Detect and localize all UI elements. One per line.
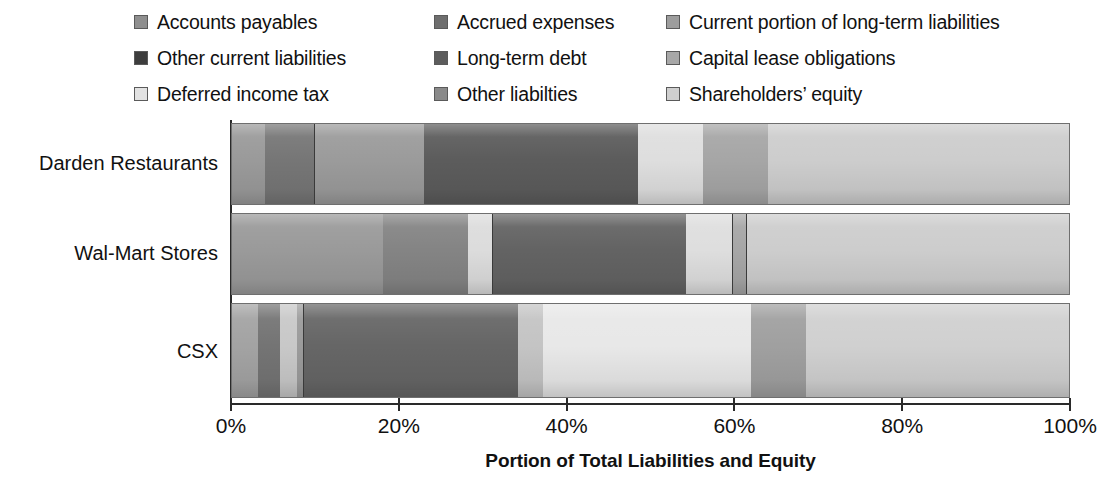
legend-item-label: Long-term debt: [457, 47, 586, 70]
legend-item: Other current liabilities: [134, 47, 434, 70]
bar-csx: [231, 303, 1070, 398]
x-axis-tick: [733, 398, 735, 411]
legend-swatch-other-liabilities: [434, 87, 448, 101]
legend-swatch-current-portion: [666, 15, 680, 29]
x-axis-tick-label: 100%: [1043, 414, 1097, 438]
legend-swatch-accrued-expenses: [434, 15, 448, 29]
legend-item-label: Accounts payables: [157, 11, 317, 34]
bar-segment: [315, 124, 424, 204]
legend-swatch-deferred-income-tax: [134, 87, 148, 101]
bar-segment: [686, 214, 733, 294]
bar-segment: [280, 304, 298, 397]
bar-segment: [232, 214, 383, 294]
legend-item: Accrued expenses: [434, 11, 666, 34]
legend-item: Other liabilties: [434, 83, 666, 106]
chart-legend: Accounts payablesAccrued expensesCurrent…: [134, 4, 1034, 112]
x-axis-tick: [901, 398, 903, 411]
bar-segment: [304, 304, 518, 397]
legend-item: Shareholders’ equity: [666, 83, 1034, 106]
legend-item: Accounts payables: [134, 11, 434, 34]
legend-item: Deferred income tax: [134, 83, 434, 106]
bar-segment: [232, 124, 265, 204]
legend-item-label: Other current liabilities: [157, 47, 346, 70]
category-label-csx: CSX: [0, 340, 218, 363]
x-axis-tick-label: 20%: [378, 414, 420, 438]
legend-swatch-other-current-liabilities: [134, 51, 148, 65]
bar-segment: [768, 124, 1069, 204]
bar-segment: [468, 214, 493, 294]
legend-item-label: Capital lease obligations: [689, 47, 895, 70]
legend-item-label: Shareholders’ equity: [689, 83, 862, 106]
bar-segment: [297, 304, 304, 397]
bar-wal-mart-stores: [231, 213, 1070, 295]
bar-segment: [265, 124, 314, 204]
x-axis-tick-label: 40%: [546, 414, 588, 438]
legend-swatch-shareholders-equity: [666, 87, 680, 101]
bar-segment: [806, 304, 1069, 397]
x-axis-tick: [566, 398, 568, 411]
bar-segment: [232, 304, 258, 397]
bar-segment: [424, 124, 638, 204]
bar-segment: [383, 214, 468, 294]
bar-segment: [751, 304, 806, 397]
stacked-bar-plot-area: [231, 120, 1070, 404]
legend-item-label: Deferred income tax: [157, 83, 329, 106]
x-axis-tick-label: 0%: [216, 414, 246, 438]
legend-swatch-capital-lease-obligations: [666, 51, 680, 65]
bar-segment: [747, 214, 1069, 294]
bar-segment: [493, 214, 686, 294]
bar-darden-restaurants: [231, 123, 1070, 205]
x-axis-title: Portion of Total Liabilities and Equity: [231, 450, 1070, 472]
bar-segment: [518, 304, 543, 397]
x-axis-tick-label: 60%: [713, 414, 755, 438]
category-label-wal-mart-stores: Wal-Mart Stores: [0, 242, 218, 265]
bar-segment: [543, 304, 751, 397]
bar-segment: [638, 124, 703, 204]
bar-segment: [733, 214, 746, 294]
legend-item-label: Current portion of long-term liabilities: [689, 11, 1000, 34]
legend-item: Long-term debt: [434, 47, 666, 70]
legend-item-label: Other liabilties: [457, 83, 577, 106]
bar-segment: [258, 304, 280, 397]
x-axis-tick-label: 80%: [881, 414, 923, 438]
x-axis-tick: [1069, 398, 1071, 411]
legend-swatch-long-term-debt: [434, 51, 448, 65]
legend-item: Current portion of long-term liabilities: [666, 11, 1034, 34]
legend-swatch-accounts-payables: [134, 15, 148, 29]
legend-item: Capital lease obligations: [666, 47, 1034, 70]
x-axis-tick: [230, 398, 232, 411]
x-axis-tick: [398, 398, 400, 411]
legend-item-label: Accrued expenses: [457, 11, 614, 34]
category-label-darden-restaurants: Darden Restaurants: [0, 152, 218, 175]
bar-segment: [703, 124, 767, 204]
